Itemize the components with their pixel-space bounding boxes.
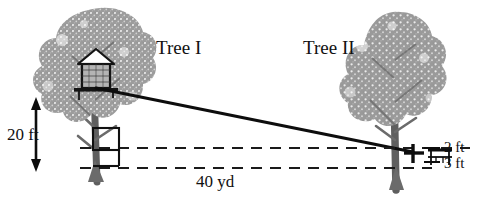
label-tree-1: Tree I [156, 38, 201, 57]
label-tree-2: Tree II [303, 38, 355, 57]
label-distance-40yd: 40 yd [196, 173, 234, 190]
label-height-3ft: 3 ft [444, 156, 464, 171]
label-height-2ft: 2 ft [444, 140, 464, 155]
diagram-artwork [0, 0, 491, 198]
right-tree-canopy [320, 0, 480, 140]
tree-distance-diagram: Tree I Tree II 20 ft 40 yd 2 ft 3 ft [0, 0, 491, 198]
label-height-20ft: 20 ft [7, 126, 39, 143]
